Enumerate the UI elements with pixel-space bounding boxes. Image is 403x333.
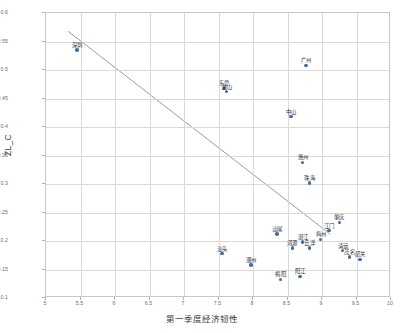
gridline-horizontal: [46, 270, 389, 271]
gridline-vertical: [81, 13, 82, 296]
data-point-label: 云浮: [304, 239, 314, 247]
y-tick-label: 0.6: [0, 9, 8, 15]
y-tick-mark: [42, 41, 45, 42]
plot-area: 深圳东莞佛山广州中山惠州珠海肇庆江门梅州汕尾湛江河源云浮清远茂名韶关汕头潮州揭阳…: [45, 12, 390, 297]
y-tick-label: 0.55: [0, 38, 8, 44]
y-tick-mark: [42, 269, 45, 270]
y-tick-mark: [42, 212, 45, 213]
y-tick-mark: [42, 69, 45, 70]
x-tick-label: 5: [30, 300, 60, 306]
data-point-label: 河源: [287, 239, 297, 247]
gridline-vertical: [288, 13, 289, 296]
data-point-label: 惠州: [298, 153, 308, 161]
x-tick-label: 9.5: [341, 300, 371, 306]
y-tick-label: 0.3: [0, 180, 8, 186]
x-tick-label: 10: [375, 300, 403, 306]
data-point-label: 梅州: [316, 230, 326, 238]
data-point-label: 肇庆: [334, 213, 344, 221]
gridline-vertical: [150, 13, 151, 296]
data-point-label: 汕头: [217, 245, 227, 253]
data-point-label: 广州: [301, 56, 311, 64]
y-tick-mark: [42, 240, 45, 241]
y-tick-label: 0.15: [0, 266, 8, 272]
gridline-horizontal: [46, 127, 389, 128]
gridline-vertical: [184, 13, 185, 296]
gridline-vertical: [253, 13, 254, 296]
gridline-vertical: [115, 13, 116, 296]
x-tick-label: 8: [237, 300, 267, 306]
data-point-label: 潮州: [246, 256, 256, 264]
data-point-label: 中山: [286, 108, 296, 116]
x-tick-label: 9: [306, 300, 336, 306]
data-point-label: 揭阳: [275, 270, 285, 278]
y-tick-mark: [42, 155, 45, 156]
y-tick-mark: [42, 183, 45, 184]
y-tick-label: 0.5: [0, 66, 8, 72]
y-tick-mark: [42, 297, 45, 298]
x-tick-label: 6.5: [134, 300, 164, 306]
gridline-horizontal: [46, 42, 389, 43]
x-tick-label: 8.5: [272, 300, 302, 306]
y-tick-label: 0.45: [0, 95, 8, 101]
y-tick-label: 0.25: [0, 209, 8, 215]
data-point-label: 茂名: [344, 248, 354, 256]
x-tick-label: 5.5: [65, 300, 95, 306]
data-point-label: 韶关: [355, 250, 365, 258]
gridline-horizontal: [46, 70, 389, 71]
scatter-chart: 深圳东莞佛山广州中山惠州珠海肇庆江门梅州汕尾湛江河源云浮清远茂名韶关汕头潮州揭阳…: [0, 0, 403, 333]
trend-line: [46, 13, 389, 296]
gridline-horizontal: [46, 184, 389, 185]
y-tick-mark: [42, 98, 45, 99]
data-point-label: 汕尾: [272, 225, 282, 233]
y-tick-label: 0.1: [0, 294, 8, 300]
x-axis-title: 第一季度经济韧性: [0, 312, 403, 324]
data-point-label: 珠海: [304, 174, 314, 182]
x-tick-label: 7: [168, 300, 198, 306]
data-point-label: 江门: [324, 222, 334, 230]
gridline-horizontal: [46, 156, 389, 157]
data-point-label: 佛山: [222, 83, 232, 91]
gridline-horizontal: [46, 99, 389, 100]
data-point-label: 深圳: [72, 41, 82, 49]
y-tick-label: 0.2: [0, 237, 8, 243]
y-tick-mark: [42, 12, 45, 13]
gridline-vertical: [322, 13, 323, 296]
x-tick-label: 6: [99, 300, 129, 306]
x-tick-label: 7.5: [203, 300, 233, 306]
y-tick-mark: [42, 126, 45, 127]
y-tick-label: 0.35: [0, 152, 8, 158]
data-point-label: 阳江: [295, 267, 305, 275]
y-tick-label: 0.4: [0, 123, 8, 129]
